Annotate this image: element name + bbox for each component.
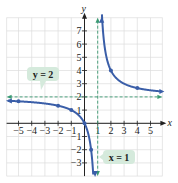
x-tick-label: 2: [108, 125, 113, 136]
y-tick-label: 5: [77, 52, 82, 63]
data-point: [83, 121, 87, 125]
y-tick-label: 6: [77, 39, 82, 50]
data-point: [109, 69, 113, 73]
data-point: [89, 148, 93, 152]
y-tick-label: 3: [77, 78, 82, 89]
x-tick-label: 5: [148, 125, 153, 136]
x-axis-arrow-icon: [160, 121, 166, 126]
curve-arrow-icon: [159, 89, 164, 94]
x-tick-label: −5: [13, 125, 24, 136]
x-tick-label: 4: [135, 125, 140, 136]
y-tick-label: 7: [77, 25, 82, 36]
horizontal-asymptote-label: y = 2: [33, 69, 54, 80]
x-axis-label: x: [166, 117, 172, 128]
y-axis-label: y: [81, 3, 87, 14]
rational-function-graph: xy−5−4−3−2−112345−3−2−11234567y = 2x = 1: [0, 0, 178, 183]
data-point: [56, 104, 60, 108]
label-pointer: [99, 154, 103, 160]
data-point: [17, 99, 21, 103]
data-point: [135, 86, 139, 90]
y-tick-label: −1: [71, 131, 82, 142]
data-point: [69, 108, 73, 112]
y-tick-label: −3: [71, 157, 82, 168]
x-tick-label: 3: [122, 125, 127, 136]
asymptote-arrow-icon: [157, 95, 162, 99]
y-tick-label: 4: [77, 65, 82, 76]
x-tick-label: −3: [40, 125, 51, 136]
x-tick-label: −4: [26, 125, 37, 136]
asymptote-arrow-icon: [7, 95, 12, 99]
x-tick-label: −2: [53, 125, 64, 136]
asymptote-arrow-icon: [96, 18, 100, 23]
y-tick-label: −2: [71, 144, 82, 155]
vertical-asymptote-label: x = 1: [109, 152, 130, 163]
